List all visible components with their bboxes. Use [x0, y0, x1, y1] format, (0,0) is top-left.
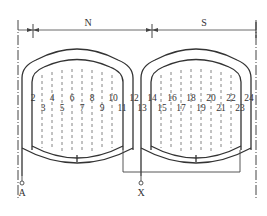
svg-text:2: 2	[31, 93, 36, 103]
svg-text:16: 16	[167, 93, 177, 103]
svg-text:18: 18	[186, 93, 196, 103]
terminal-a-icon	[20, 181, 24, 185]
svg-text:9: 9	[100, 103, 105, 113]
svg-text:17: 17	[176, 103, 186, 113]
svg-text:13: 13	[137, 103, 147, 113]
svg-text:7: 7	[80, 103, 85, 113]
terminal-label-x: X	[137, 187, 145, 198]
svg-text:22: 22	[226, 93, 236, 103]
slot-numbers-odd: 3 5 7 9 11 13 15 17 19 21 23	[41, 103, 245, 113]
winding-diagram: N S A X 2 4	[0, 0, 267, 216]
svg-text:5: 5	[60, 103, 65, 113]
terminal-label-a: A	[18, 187, 26, 198]
svg-text:23: 23	[235, 103, 245, 113]
pole-label-s: S	[201, 17, 207, 28]
svg-text:4: 4	[50, 93, 55, 103]
terminal-x-icon	[139, 181, 143, 185]
svg-text:21: 21	[216, 103, 226, 113]
svg-text:10: 10	[108, 93, 118, 103]
svg-text:6: 6	[70, 93, 75, 103]
svg-text:20: 20	[206, 93, 216, 103]
svg-text:12: 12	[129, 93, 139, 103]
coil-group-1	[22, 49, 133, 176]
svg-text:15: 15	[157, 103, 167, 113]
pole-label-n: N	[84, 17, 91, 28]
svg-text:14: 14	[147, 93, 157, 103]
svg-text:8: 8	[90, 93, 95, 103]
svg-text:19: 19	[196, 103, 206, 113]
svg-text:11: 11	[117, 103, 126, 113]
slot-numbers-even: 2 4 6 8 10 12 14 16 18 20 22 24	[31, 93, 254, 103]
svg-text:3: 3	[41, 103, 46, 113]
svg-text:24: 24	[244, 93, 254, 103]
